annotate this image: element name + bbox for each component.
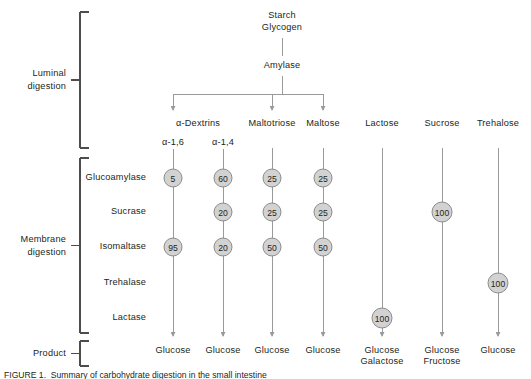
product-label-lactose: Glucose [365,345,400,357]
column-header-lactose: Lactose [365,118,398,130]
product-label-trehalose: Glucose [481,345,516,357]
value-node-maltotriose-glucoamylase: 25 [263,169,282,188]
column-header-sucrose: Sucrose [425,118,460,130]
column-header-maltotriose: Maltotriose [249,118,296,130]
amylase-label: Amylase [264,60,301,72]
stage-label-luminal-line2: digestion [28,81,66,93]
value-node-lactose-lactase: 100 [372,308,393,329]
enzyme-row-label-lactase: Lactase [113,312,146,324]
value-node-alpha-dextrins-16-glucoamylase: 5 [164,169,183,188]
column-header-trehalose: Trehalose [477,118,519,130]
product-label2-sucrose: Fructose [423,356,460,368]
stage-label-membrane-line2: digestion [28,247,66,259]
value-node-maltose-isomaltase: 50 [314,238,333,257]
substrate-starch-label: Starch [268,10,296,22]
product-label-maltotriose: Glucose [255,345,290,357]
product-label-alpha-dextrins-16: Glucose [156,345,191,357]
value-node-alpha-dextrins-14-sucrase: 20 [214,203,233,222]
enzyme-row-label-glucoamylase: Glucoamylase [86,172,146,184]
column-header-alpha-dextrins: α-Dextrins [176,118,220,130]
value-node-maltose-sucrase: 25 [314,203,333,222]
enzyme-row-label-sucrase: Sucrase [111,206,146,218]
value-node-maltotriose-sucrase: 25 [263,203,282,222]
column-header-maltose: Maltose [306,118,339,130]
enzyme-row-label-trehalase: Trehalase [104,277,146,289]
enzyme-row-label-isomaltase: Isomaltase [100,241,146,253]
value-node-alpha-dextrins-14-isomaltase: 20 [214,238,233,257]
product-label-alpha-dextrins-14: Glucose [206,345,241,357]
generated-brackets [71,12,89,366]
diagram-lines-layer [0,0,531,379]
value-node-alpha-dextrins-16-isomaltase: 95 [164,238,183,257]
column-sublabel-alpha-dextrins-16: α-1,6 [162,137,184,149]
product-label2-lactose: Galactose [360,356,403,368]
value-node-maltose-glucoamylase: 25 [314,169,333,188]
stage-label-product: Product [33,348,66,360]
value-node-maltotriose-isomaltase: 50 [263,238,282,257]
substrate-glycogen-label: Glycogen [262,22,302,34]
product-label-sucrose: Glucose [425,345,460,357]
value-node-alpha-dextrins-14-glucoamylase: 60 [214,169,233,188]
value-node-trehalose-trehalase: 100 [488,273,509,294]
stage-label-membrane-line1: Membrane [21,234,66,246]
column-sublabel-alpha-dextrins-14: α-1,4 [212,137,234,149]
figure-caption: FIGURE 1. Summary of carbohydrate digest… [4,370,267,379]
figure-canvas: StarchGlycogenAmylaseα-Dextrinsα-1,6Gluc… [0,0,531,379]
value-node-sucrose-sucrase: 100 [432,202,453,223]
stage-label-luminal-line1: Luminal [33,68,66,80]
product-label-maltose: Glucose [306,345,341,357]
